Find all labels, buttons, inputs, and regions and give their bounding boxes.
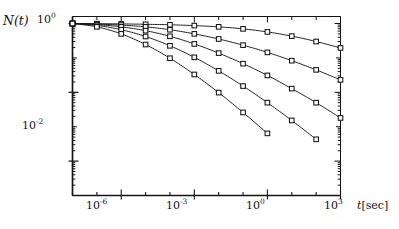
chart-canvas [0,0,399,229]
marker-s4-p4 [168,44,173,49]
marker-s5-p2 [119,32,124,37]
marker-s1-p7 [241,27,246,32]
x-tick-exp-1e-6: -6 [100,197,107,206]
marker-s5-p7 [241,110,246,115]
y-tick-exp-1e-2: -2 [36,117,43,126]
y-axis-label: N(t) [3,15,29,28]
marker-s3-p4 [168,34,173,39]
marker-s2-p10 [314,68,319,73]
x-tick-base-1e-6: 10 [86,199,100,212]
marker-s4-p7 [241,84,246,89]
marker-s3-p11 [338,116,343,121]
marker-s4-p5 [192,55,197,60]
marker-s4-p9 [289,118,294,123]
x-tick-base-1e0: 10 [246,199,260,212]
marker-s5-p3 [143,42,148,47]
marker-s4-p10 [314,137,319,142]
marker-s3-p9 [289,86,294,91]
x-tick-label-1e-6: 10-6 [86,200,107,211]
marker-s2-p8 [265,50,270,55]
marker-s5-p4 [168,56,173,61]
marker-s2-p6 [216,37,221,42]
marker-s4-p3 [143,34,148,39]
marker-s2-p11 [338,78,343,83]
marker-s4-p6 [216,69,221,74]
marker-s2-p7 [241,43,246,48]
marker-s5-p1 [95,25,100,30]
x-tick-label-1e3: 103 [324,200,343,211]
marker-s1-p8 [265,30,270,35]
axis-ticks [69,17,341,200]
y-tick-base-1e0: 10 [37,13,51,26]
marker-s2-p5 [192,32,197,37]
axes-frame [73,17,341,196]
marker-s1-p4 [168,22,173,27]
y-tick-base-1e-2: 10 [22,119,36,132]
x-tick-base-1e-3: 10 [166,199,180,212]
marker-s1-p10 [314,39,319,44]
data-curves [73,24,341,140]
figure-root: N(t) 100 10-2 10-6 10-3 100 103 t[sec] [0,0,399,229]
marker-s1-p9 [289,34,294,39]
marker-s3-p6 [216,51,221,56]
marker-s4-p8 [265,100,270,105]
marker-s5-p8 [265,131,270,136]
marker-s3-p5 [192,42,197,47]
x-axis-label: t[sec] [357,200,388,211]
y-tick-label-1e0: 100 [37,14,56,25]
x-tick-label-1e-3: 10-3 [166,200,187,211]
x-tick-base-1e3: 10 [324,199,338,212]
marker-s5-p0 [70,21,75,26]
marker-s3-p8 [265,73,270,78]
x-axis-unit: [sec] [361,199,388,212]
marker-s2-p9 [289,58,294,63]
marker-s5-p5 [192,72,197,77]
marker-s3-p3 [143,28,148,33]
marker-s3-p7 [241,61,246,66]
x-tick-exp-1e0: 0 [260,197,265,206]
y-tick-label-1e-2: 10-2 [22,120,43,131]
marker-s1-p11 [338,46,343,51]
data-markers [70,21,343,141]
y-tick-exp-1e0: 0 [51,11,56,20]
curve-path-5 [73,24,268,134]
x-tick-exp-1e3: 3 [338,197,343,206]
x-tick-label-1e0: 100 [246,200,265,211]
marker-s2-p4 [168,27,173,32]
curve-path-2 [73,24,341,80]
curve-path-1 [73,24,341,48]
plot-area [0,0,399,229]
x-tick-exp-1e-3: -3 [180,197,187,206]
marker-s5-p6 [216,90,221,95]
marker-s3-p10 [314,100,319,105]
marker-s1-p6 [216,25,221,30]
marker-s1-p5 [192,23,197,28]
